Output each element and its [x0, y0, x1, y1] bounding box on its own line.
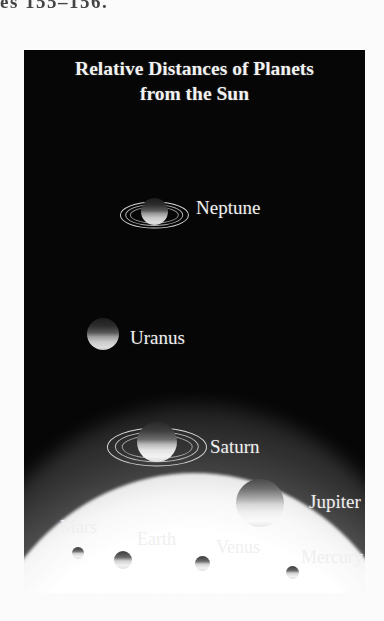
planet-venus [195, 556, 210, 571]
planet-label-earth: Earth [137, 529, 176, 550]
planet-label-saturn: Saturn [210, 436, 260, 458]
planet-mercury [286, 566, 299, 579]
planet-label-mercury: Mercury [301, 547, 363, 568]
astronomy-figure-panel: Relative Distances of Planets from the S… [24, 50, 365, 593]
planet-label-mars: Mars [60, 517, 97, 538]
figure-title-line-1: Relative Distances of Planets [24, 56, 365, 81]
planet-label-neptune: Neptune [196, 197, 260, 219]
planet-label-venus: Venus [216, 537, 260, 558]
planet-neptune [141, 198, 168, 225]
page-header-fragment: es 155–156. [0, 0, 200, 11]
planet-uranus [87, 318, 119, 350]
planet-jupiter [236, 479, 284, 527]
planet-label-uranus: Uranus [130, 327, 185, 349]
planet-label-jupiter: Jupiter [309, 491, 361, 513]
planet-saturn [137, 422, 177, 462]
figure-title: Relative Distances of Planets from the S… [24, 56, 365, 106]
planet-earth [114, 551, 132, 569]
figure-title-line-2: from the Sun [24, 81, 365, 106]
planet-mars [72, 547, 84, 559]
